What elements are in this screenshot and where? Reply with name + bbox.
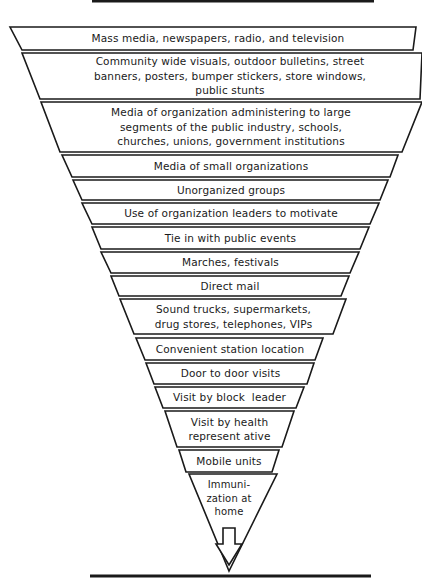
band-3-line-2: segments of the public industry, schools…: [120, 120, 342, 135]
band-16-line-3: home: [215, 505, 244, 519]
band-6-line-1: Use of organization leaders to motivate: [124, 206, 338, 221]
band-16-label: Immuni- zation at home: [195, 478, 263, 522]
band-9-label: Direct mail: [119, 276, 341, 296]
band-5-label: Unorganized groups: [82, 180, 380, 200]
band-2-line-3: public stunts: [195, 83, 264, 98]
band-8-line-1: Marches, festivals: [182, 255, 279, 270]
band-10-line-1: Sound trucks, supermarkets,: [156, 302, 311, 317]
band-13-label: Visit by block leader: [163, 387, 296, 408]
band-16-line-2: zation at: [206, 492, 251, 506]
band-9-line-1: Direct mail: [201, 279, 260, 294]
band-10-line-2: drug stores, telephones, VIPs: [155, 317, 313, 332]
band-15-label: Mobile units: [186, 450, 272, 472]
band-2-line-2: banners, posters, bumper stickers, store…: [94, 69, 366, 84]
band-2-label: Community wide visuals, outdoor bulletin…: [40, 53, 420, 99]
band-11-label: Convenient station location: [145, 338, 315, 360]
band-2-line-1: Community wide visuals, outdoor bulletin…: [96, 54, 365, 69]
band-3-line-1: Media of organization administering to l…: [111, 105, 351, 120]
band-4-line-1: Media of small organizations: [154, 159, 309, 174]
band-4-label: Media of small organizations: [72, 155, 390, 177]
band-13-line-1: Visit by block leader: [173, 390, 286, 405]
band-1-label: Mass media, newspapers, radio, and telev…: [22, 27, 414, 50]
band-6-label: Use of organization leaders to motivate: [92, 203, 370, 224]
band-16-line-1: Immuni-: [208, 478, 251, 492]
band-8-label: Marches, festivals: [111, 252, 350, 273]
band-7-label: Tie in with public events: [101, 227, 360, 249]
band-12-line-1: Door to door visits: [181, 366, 281, 381]
band-15-line-1: Mobile units: [196, 454, 261, 469]
band-14-line-2: represent ative: [188, 429, 270, 444]
funnel-diagram: Mass media, newspapers, radio, and telev…: [0, 0, 422, 586]
band-5-line-1: Unorganized groups: [177, 183, 285, 198]
band-3-label: Media of organization administering to l…: [60, 102, 402, 152]
band-14-line-1: Visit by health: [191, 415, 268, 430]
band-7-line-1: Tie in with public events: [165, 231, 296, 246]
band-1-line-1: Mass media, newspapers, radio, and telev…: [92, 31, 345, 46]
band-11-line-1: Convenient station location: [156, 342, 304, 357]
band-3-line-3: churches, unions, government institution…: [117, 134, 345, 149]
band-12-label: Door to door visits: [154, 363, 307, 384]
band-14-label: Visit by health represent ative: [177, 411, 282, 447]
band-10-label: Sound trucks, supermarkets, drug stores,…: [134, 299, 333, 334]
